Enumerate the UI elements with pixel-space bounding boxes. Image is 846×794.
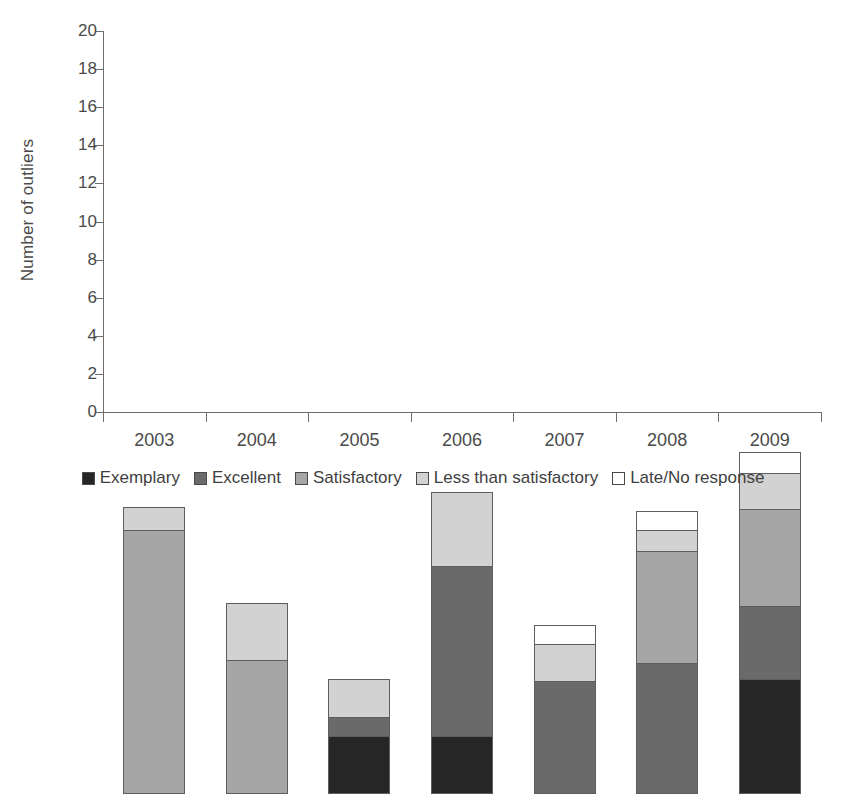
legend-label: Exemplary	[100, 468, 180, 488]
x-axis-label-2009: 2009	[725, 430, 815, 451]
bar-segment-exemplary[interactable]	[739, 679, 801, 794]
x-axis-line	[103, 412, 821, 413]
x-axis-label-2007: 2007	[520, 430, 610, 451]
bar-segment-excellent[interactable]	[534, 681, 596, 794]
legend-swatch-icon	[295, 472, 308, 485]
x-axis-label-2008: 2008	[622, 430, 712, 451]
plot-area: 02468101214161820 2003200420052006200720…	[103, 31, 821, 412]
bar-segment-exemplary[interactable]	[328, 736, 390, 794]
x-tick-end	[821, 412, 822, 422]
x-tick-2006	[411, 412, 412, 422]
bar-segment-satisfactory[interactable]	[739, 509, 801, 607]
bar-segment-excellent[interactable]	[328, 717, 390, 737]
bar-segment-less-than-satisfactory[interactable]	[123, 507, 185, 531]
y-tick-label: 2	[88, 364, 97, 384]
x-axis-label-2004: 2004	[212, 430, 302, 451]
legend-label: Excellent	[212, 468, 281, 488]
x-axis-label-2006: 2006	[417, 430, 507, 451]
y-tick-label: 8	[88, 250, 97, 270]
legend-item-exemplary[interactable]: Exemplary	[82, 468, 180, 488]
y-tick-label: 6	[88, 288, 97, 308]
x-tick-2009	[718, 412, 719, 422]
bar-segment-satisfactory[interactable]	[123, 530, 185, 794]
y-tick-label: 14	[78, 135, 97, 155]
bar-segment-late-no-response[interactable]	[636, 511, 698, 531]
x-axis-label-2005: 2005	[314, 430, 404, 451]
legend-swatch-icon	[612, 472, 625, 485]
legend-item-satisfactory[interactable]: Satisfactory	[295, 468, 402, 488]
bar-segment-less-than-satisfactory[interactable]	[328, 679, 390, 718]
bar-segment-satisfactory[interactable]	[226, 660, 288, 794]
legend-swatch-icon	[82, 472, 95, 485]
bar-segment-late-no-response[interactable]	[534, 625, 596, 645]
y-axis-line	[103, 31, 104, 412]
x-tick-2007	[513, 412, 514, 422]
legend-item-less-than-satisfactory[interactable]: Less than satisfactory	[416, 468, 598, 488]
legend-swatch-icon	[194, 472, 207, 485]
legend-swatch-icon	[416, 472, 429, 485]
chart-legend: ExemplaryExcellentSatisfactoryLess than …	[0, 468, 846, 488]
y-tick-label: 20	[78, 21, 97, 41]
legend-label: Less than satisfactory	[434, 468, 598, 488]
y-axis-title: Number of outliers	[14, 0, 42, 430]
x-tick-2008	[616, 412, 617, 422]
y-tick-label: 12	[78, 173, 97, 193]
bar-segment-excellent[interactable]	[739, 606, 801, 679]
bar-segment-less-than-satisfactory[interactable]	[226, 603, 288, 661]
y-tick-label: 16	[78, 97, 97, 117]
bar-segment-excellent[interactable]	[431, 566, 493, 737]
legend-item-late-no-response[interactable]: Late/No response	[612, 468, 764, 488]
bar-segment-less-than-satisfactory[interactable]	[431, 492, 493, 567]
y-tick-label: 4	[88, 326, 97, 346]
x-tick-2005	[308, 412, 309, 422]
x-axis-label-2003: 2003	[109, 430, 199, 451]
bar-segment-excellent[interactable]	[636, 663, 698, 794]
legend-label: Late/No response	[630, 468, 764, 488]
legend-label: Satisfactory	[313, 468, 402, 488]
bar-segment-exemplary[interactable]	[431, 736, 493, 794]
x-tick-2003	[103, 412, 104, 422]
bar-segment-less-than-satisfactory[interactable]	[636, 530, 698, 552]
x-tick-2004	[206, 412, 207, 422]
legend-item-excellent[interactable]: Excellent	[194, 468, 281, 488]
y-tick-label: 18	[78, 59, 97, 79]
y-tick-label: 10	[78, 212, 97, 232]
y-tick-label: 0	[88, 402, 97, 422]
bar-segment-less-than-satisfactory[interactable]	[534, 644, 596, 681]
bar-segment-satisfactory[interactable]	[636, 551, 698, 664]
